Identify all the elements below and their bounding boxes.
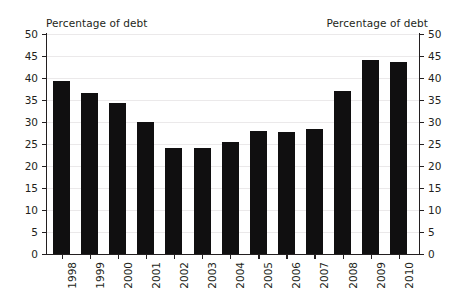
y-tick-label: 40: [25, 73, 38, 83]
x-tick: [371, 255, 372, 259]
x-tick: [90, 255, 91, 259]
y-tick-left: [42, 232, 46, 233]
bar: [194, 148, 211, 254]
gridline: [46, 56, 420, 57]
y-tick-right: [420, 122, 424, 123]
y-tick-label: 35: [428, 95, 441, 105]
y-tick-label: 50: [25, 29, 38, 39]
bar: [250, 131, 267, 254]
y-tick-left: [42, 144, 46, 145]
plot-inner: [46, 34, 420, 254]
x-tick: [399, 255, 400, 259]
x-tick-label: 2010: [404, 262, 415, 289]
x-tick: [202, 255, 203, 259]
x-tick-label: 1998: [67, 262, 78, 289]
x-tick: [314, 255, 315, 259]
y-tick-left: [42, 254, 46, 255]
y-axis-left: [46, 33, 47, 255]
y-tick-left: [42, 188, 46, 189]
bar: [137, 122, 154, 254]
y-tick-left: [42, 122, 46, 123]
x-tick-label: 2006: [291, 262, 302, 289]
y-tick-label: 10: [428, 205, 441, 215]
y-tick-left: [42, 210, 46, 211]
y-tick-label: 20: [428, 161, 441, 171]
x-tick: [343, 255, 344, 259]
right-axis-title: Percentage of debt: [326, 17, 428, 29]
y-tick-label: 0: [428, 249, 435, 259]
plot-area: [46, 34, 420, 254]
y-tick-label: 20: [25, 161, 38, 171]
y-tick-right: [420, 100, 424, 101]
x-tick: [118, 255, 119, 259]
x-tick-label: 1999: [95, 262, 106, 289]
y-tick-right: [420, 166, 424, 167]
y-tick-label: 30: [25, 117, 38, 127]
y-tick-label: 5: [428, 227, 435, 237]
y-tick-label: 15: [428, 183, 441, 193]
x-tick-label: 2004: [235, 262, 246, 289]
bar: [109, 103, 126, 254]
y-tick-right: [420, 34, 424, 35]
bar-chart: Percentage of debt Percentage of debt 00…: [0, 0, 462, 308]
x-tick: [286, 255, 287, 259]
x-tick-label: 2003: [207, 262, 218, 289]
x-tick-label: 2000: [123, 262, 134, 289]
y-tick-right: [420, 232, 424, 233]
x-tick-label: 2009: [376, 262, 387, 289]
bar: [165, 148, 182, 254]
bar: [278, 132, 295, 254]
x-tick: [230, 255, 231, 259]
x-tick: [258, 255, 259, 259]
y-tick-right: [420, 210, 424, 211]
y-tick-label: 50: [428, 29, 441, 39]
y-tick-label: 15: [25, 183, 38, 193]
y-tick-left: [42, 34, 46, 35]
x-tick: [174, 255, 175, 259]
y-tick-left: [42, 100, 46, 101]
y-tick-left: [42, 78, 46, 79]
y-tick-label: 35: [25, 95, 38, 105]
x-tick-label: 2007: [319, 262, 330, 289]
y-tick-label: 45: [428, 51, 441, 61]
y-tick-left: [42, 56, 46, 57]
y-tick-label: 40: [428, 73, 441, 83]
y-tick-label: 25: [428, 139, 441, 149]
bar: [81, 93, 98, 254]
x-tick-label: 2002: [179, 262, 190, 289]
y-tick-right: [420, 56, 424, 57]
y-tick-right: [420, 144, 424, 145]
y-tick-right: [420, 78, 424, 79]
y-tick-label: 5: [31, 227, 38, 237]
x-tick: [62, 255, 63, 259]
bar: [334, 91, 351, 254]
x-tick-label: 2005: [263, 262, 274, 289]
x-tick-label: 2008: [348, 262, 359, 289]
x-tick-label: 2001: [151, 262, 162, 289]
bar: [362, 60, 379, 254]
y-tick-left: [42, 166, 46, 167]
y-tick-right: [420, 188, 424, 189]
left-axis-title: Percentage of debt: [46, 17, 148, 29]
gridline: [46, 34, 420, 35]
x-tick: [146, 255, 147, 259]
bar: [53, 81, 70, 254]
y-tick-right: [420, 254, 424, 255]
bar: [390, 62, 407, 254]
y-tick-label: 10: [25, 205, 38, 215]
y-tick-label: 45: [25, 51, 38, 61]
y-tick-label: 25: [25, 139, 38, 149]
y-tick-label: 0: [31, 249, 38, 259]
bar: [222, 142, 239, 254]
bar: [306, 129, 323, 254]
x-axis: [46, 254, 420, 255]
y-tick-label: 30: [428, 117, 441, 127]
